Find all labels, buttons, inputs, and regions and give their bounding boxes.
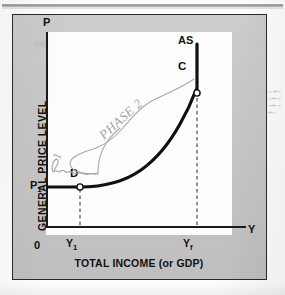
pencil-annotation-phase2-text: PHASE 2	[95, 96, 145, 143]
x-axis-title: TOTAL INCOME (or GDP)	[46, 257, 232, 269]
page-bottom-fade	[0, 283, 285, 295]
x-axis-symbol: Y	[248, 223, 255, 235]
pencil-annotation-phase1-squiggle	[52, 159, 98, 174]
margin-bleed-text: ▁ ▂▁ ▁▂ ▁ ▁▂ ▁ ▂▁	[268, 86, 284, 182]
page-top-rule-shadow	[2, 7, 283, 9]
figure-frame: GENERAL PRICE LEVEL P Y 0 P1 Y1 Yf AS C …	[12, 14, 267, 280]
point-d-marker	[77, 184, 83, 190]
origin-label: 0	[34, 239, 40, 251]
x-tick-label-y1: Y1	[66, 237, 77, 252]
plot-area: GENERAL PRICE LEVEL P Y 0 P1 Y1 Yf AS C …	[46, 32, 232, 235]
plot-svg: PHASE 2 1	[46, 32, 246, 232]
y-tick-label-p1: P1	[30, 179, 42, 194]
y-axis-symbol: P	[43, 16, 50, 28]
pencil-annotation-phase1-text: 1	[49, 151, 64, 160]
pencil-annotation-phase2-bracket	[70, 79, 194, 174]
svg-text:PHASE 2: PHASE 2	[95, 96, 145, 143]
point-c-marker	[194, 90, 200, 96]
svg-text:1: 1	[49, 151, 64, 160]
as-curve-path	[48, 90, 196, 187]
scanned-page: GENERAL PRICE LEVEL P Y 0 P1 Y1 Yf AS C …	[0, 0, 285, 295]
x-tick-label-yf: Yf	[183, 237, 193, 252]
